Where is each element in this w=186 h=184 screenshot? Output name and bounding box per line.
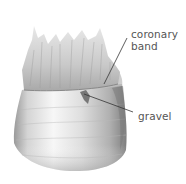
gravel-label: gravel [138,110,172,122]
hoof-diagram: coronary band gravel [0,0,186,184]
gravel-label-text: gravel [138,110,172,122]
coronary-band-label: coronary band [131,28,178,52]
coronary-band-label-line-2: band [131,40,178,52]
coronary-band-label-line-1: coronary [131,28,178,40]
